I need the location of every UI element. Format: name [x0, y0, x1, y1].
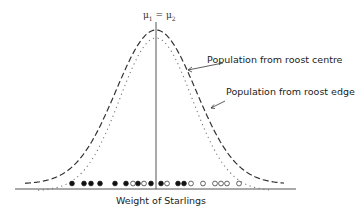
filled-point-icon	[89, 181, 94, 186]
filled-point-icon	[124, 181, 129, 186]
filled-point-icon	[82, 181, 87, 186]
open-point-icon	[219, 181, 224, 186]
filled-point-icon	[136, 181, 141, 186]
x-axis-label: Weight of Starlings	[116, 195, 206, 206]
label-roost-centre: Population from roost centre	[207, 54, 342, 65]
filled-point-icon	[176, 181, 181, 186]
open-point-icon	[189, 181, 194, 186]
curve-roost-centre	[25, 30, 284, 183]
open-point-icon	[201, 181, 206, 186]
open-point-icon	[131, 181, 136, 186]
open-point-icon	[165, 181, 170, 186]
filled-point-icon	[70, 181, 75, 186]
filled-point-icon	[159, 181, 164, 186]
open-point-icon	[225, 181, 230, 186]
filled-point-icon	[182, 181, 187, 186]
label-roost-edge: Population from roost edge	[226, 86, 355, 97]
mean-equality-label: μ1 = μ2	[143, 10, 176, 22]
filled-point-icon	[149, 181, 154, 186]
open-point-icon	[142, 181, 147, 186]
arrow-edge	[211, 101, 225, 108]
filled-point-icon	[113, 181, 118, 186]
open-point-icon	[237, 181, 242, 186]
open-point-icon	[213, 181, 218, 186]
filled-point-icon	[98, 181, 103, 186]
